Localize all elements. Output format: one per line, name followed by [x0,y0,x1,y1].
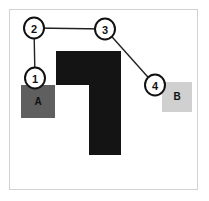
node-1[interactable]: 1 [25,68,45,89]
region-a-label: A [34,96,41,107]
node-2-label: 2 [31,23,37,35]
node-2[interactable]: 2 [24,18,44,39]
node-1-label: 1 [32,73,38,85]
path-planning-diagram: 1 2 3 4 A B [0,0,209,201]
obstacle-l-shape [56,51,121,155]
node-4[interactable]: 4 [145,75,165,96]
node-3[interactable]: 3 [95,19,115,40]
diagram-screenshot: 1 2 3 4 A B [0,0,209,201]
region-b-label: B [173,91,180,102]
node-3-label: 3 [102,24,108,36]
node-4-label: 4 [152,80,159,92]
obstacle-layer [56,51,121,155]
